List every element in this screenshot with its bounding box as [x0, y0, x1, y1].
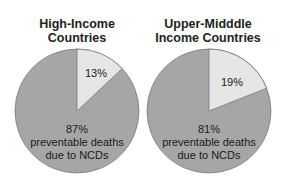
pie0-small-pct: 13% — [85, 67, 107, 79]
pie-charts: 13% 87% preventable deaths due to NCDs 1… — [0, 0, 292, 183]
pie0-big-line1: preventable deaths — [30, 136, 124, 148]
pie1-big-line1: preventable deaths — [162, 136, 256, 148]
pie0-big-pct: 87% — [66, 123, 88, 135]
pie0-big-line2: due to NCDs — [46, 149, 109, 161]
pie1-big-line2: due to NCDs — [178, 149, 241, 161]
pie1-small-pct: 19% — [221, 76, 243, 88]
pie1-big-pct: 81% — [198, 123, 220, 135]
